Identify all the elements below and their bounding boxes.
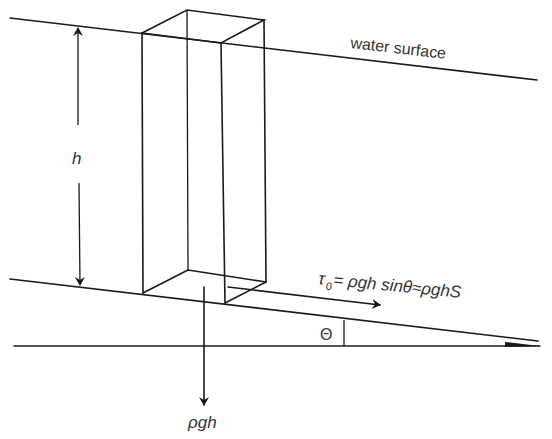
weight-label: ρgh	[187, 413, 217, 432]
box-edge-back-left	[187, 10, 188, 270]
box-bottom-front-left	[143, 270, 188, 293]
water-column-box	[142, 10, 266, 303]
shear-subscript: 0	[325, 280, 332, 293]
box-edge-front-left	[142, 33, 143, 293]
box-top-face	[142, 10, 264, 43]
box-bottom-right	[225, 282, 266, 303]
water-surface-label: water surface	[349, 34, 447, 62]
box-bottom-back	[188, 270, 266, 282]
box-edge-back-right	[264, 20, 266, 282]
depth-label: h	[72, 149, 81, 168]
water-surface-line	[10, 18, 537, 80]
angle-label: Θ	[320, 326, 332, 343]
box-edge-front-right	[221, 43, 225, 303]
diagram-canvas: h τ 0 = ρgh sinθ≈ρghS ρgh Θ water surfac…	[0, 0, 552, 439]
depth-arrow-lower	[79, 183, 80, 285]
shear-formula: = ρgh sinθ≈ρghS	[333, 271, 463, 302]
